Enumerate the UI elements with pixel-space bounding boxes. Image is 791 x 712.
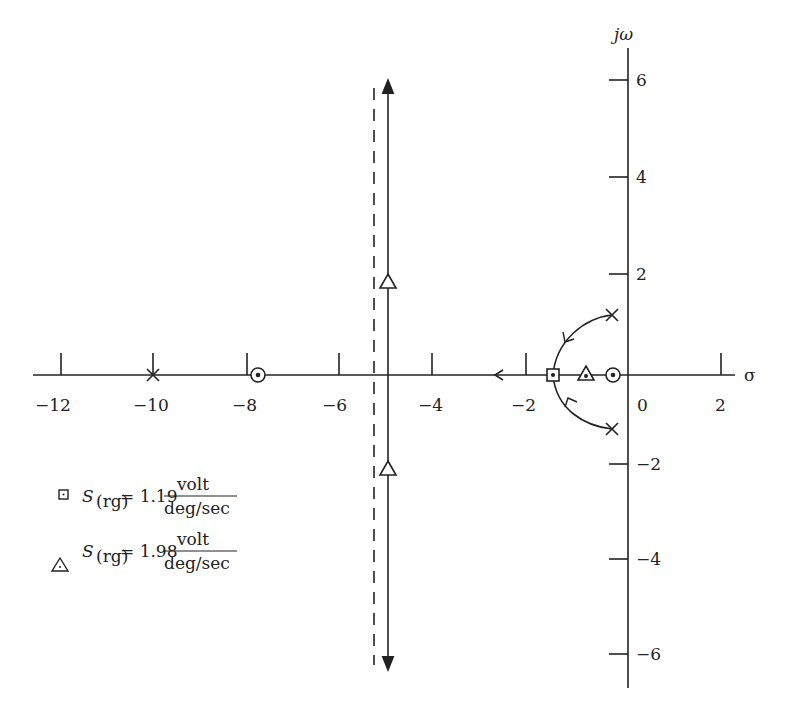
triangle-marker-icon — [380, 274, 396, 288]
square-marker-icon — [547, 369, 559, 381]
svg-text:deg/sec: deg/sec — [164, 498, 230, 518]
x-tick-label: −6 — [322, 395, 347, 415]
triangle-marker-icon — [52, 558, 68, 571]
x-tick-label: −4 — [418, 395, 443, 415]
y-tick-label: 6 — [636, 70, 647, 90]
jw-axis-label: jω — [610, 24, 633, 44]
y-tick-label: −2 — [636, 454, 661, 474]
x-tick-label: −2 — [511, 395, 536, 415]
y-tick-label: 4 — [636, 167, 647, 187]
svg-text:S: S — [82, 486, 94, 506]
triangle-marker-icon — [578, 366, 594, 380]
x-tick-label: 2 — [715, 395, 726, 415]
legend: S (rg) = 1.19 volt deg/sec S (rg) = 1.98… — [52, 474, 237, 573]
zero-icon — [251, 368, 265, 382]
svg-text:volt: volt — [176, 474, 209, 494]
root-locus-diagram: jω σ −12 −10 −8 −6 −4 −2 0 2 6 4 2 −2 −4… — [0, 0, 791, 712]
y-tick-label: −4 — [636, 549, 661, 569]
locus-arc-lower — [553, 375, 612, 429]
x-tick-label: −10 — [133, 395, 169, 415]
y-ticks — [609, 80, 628, 654]
arc-arrow-lower-icon — [565, 398, 577, 407]
x-tick-label: −12 — [35, 395, 71, 415]
triangle-marker-icon — [380, 461, 396, 475]
x-tick-label: 0 — [637, 395, 648, 415]
x-tick-label: −8 — [232, 395, 257, 415]
y-tick-label: −6 — [636, 644, 661, 664]
svg-text:volt: volt — [176, 529, 209, 549]
svg-text:S: S — [82, 541, 94, 561]
svg-text:deg/sec: deg/sec — [164, 553, 230, 573]
zero-icon — [606, 368, 620, 382]
legend-item-square: S (rg) = 1.19 volt deg/sec — [59, 474, 237, 518]
x-ticks — [61, 353, 721, 375]
sigma-axis-label: σ — [744, 365, 756, 385]
legend-item-triangle: S (rg) = 1.98 volt deg/sec — [52, 529, 237, 573]
locus-arc-upper — [553, 315, 612, 375]
y-tick-label: 2 — [636, 264, 647, 284]
